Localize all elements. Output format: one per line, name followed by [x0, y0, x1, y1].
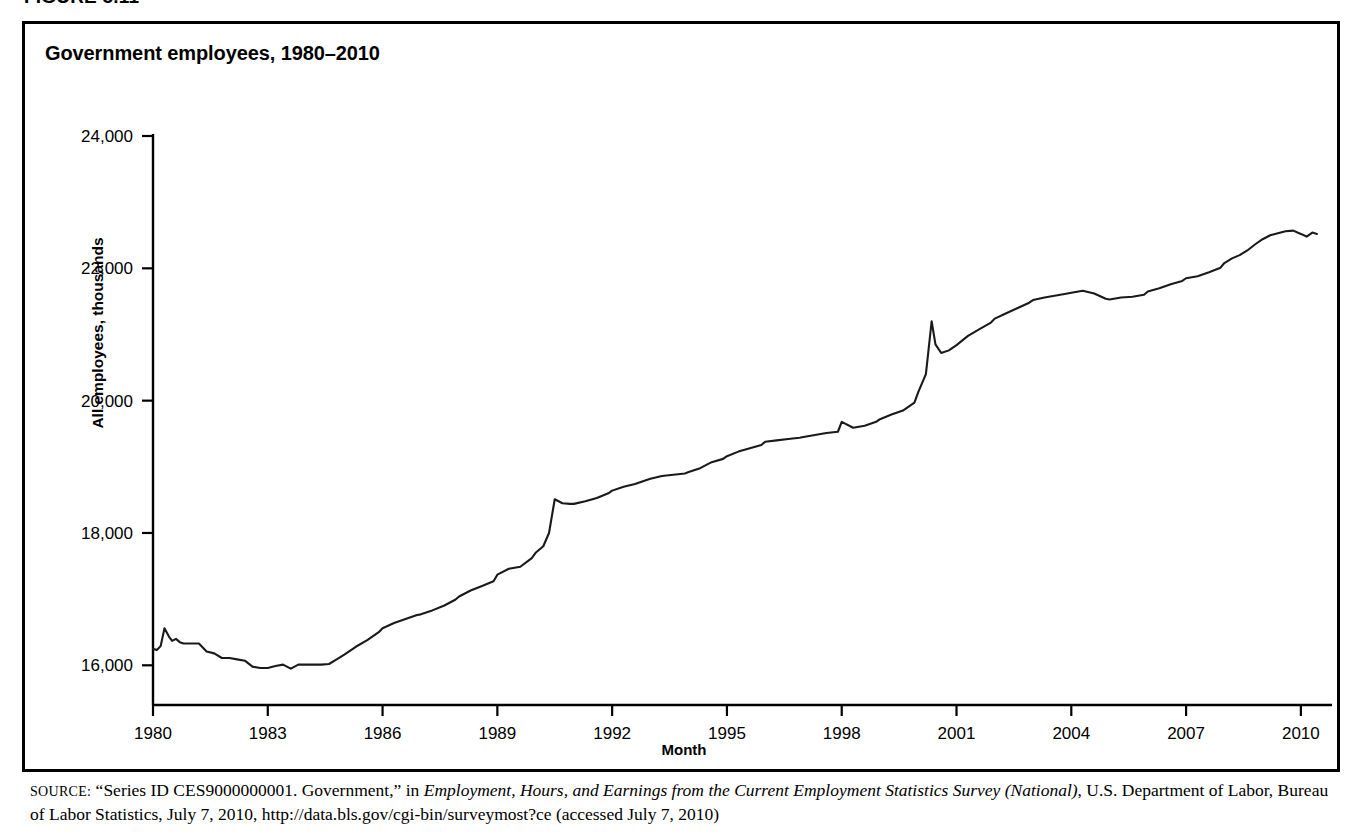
figure-page: FIGURE 5.11 Government employees, 1980–2… [0, 0, 1357, 837]
x-tick-label: 2010 [1282, 724, 1320, 743]
x-tick-label: 2007 [1167, 724, 1205, 743]
y-tick-label: 22,000 [81, 259, 133, 278]
x-tick-label: 1980 [134, 724, 172, 743]
x-tick-label: 1998 [823, 724, 861, 743]
y-tick-label: 20,000 [81, 392, 133, 411]
figure-number-label: FIGURE 5.11 [24, 0, 139, 8]
x-tick-group: 1980198319861989199219951998200120042007… [134, 705, 1320, 743]
x-tick-label: 1986 [364, 724, 402, 743]
y-tick-group: 16,00018,00020,00022,00024,000 [81, 127, 153, 675]
line-chart-plot: 16,00018,00020,00022,00024,000 198019831… [25, 24, 1343, 775]
x-tick-label: 1983 [249, 724, 287, 743]
figure-box: Government employees, 1980–2010 All empl… [22, 21, 1340, 772]
y-tick-label: 16,000 [81, 656, 133, 675]
x-tick-label: 2001 [938, 724, 976, 743]
x-tick-label: 1989 [478, 724, 516, 743]
y-tick-label: 24,000 [81, 127, 133, 146]
x-tick-label: 1995 [708, 724, 746, 743]
x-tick-label: 2004 [1052, 724, 1090, 743]
source-text-part1: “Series ID CES9000000001. Government,” i… [91, 780, 423, 800]
data-series-line [153, 231, 1317, 669]
y-tick-label: 18,000 [81, 524, 133, 543]
source-prefix: SOURCE: [30, 784, 91, 799]
x-tick-label: 1992 [593, 724, 631, 743]
source-note: SOURCE: “Series ID CES9000000001. Govern… [30, 779, 1340, 825]
source-publication-title: Employment, Hours, and Earnings from the… [424, 780, 1078, 800]
